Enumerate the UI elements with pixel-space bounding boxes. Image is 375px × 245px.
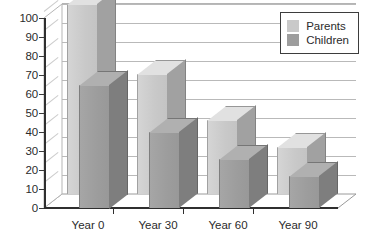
bar-front-face <box>289 176 320 208</box>
y-tick-label: 20 <box>26 164 38 176</box>
legend-swatch-icon <box>287 34 299 46</box>
x-tick-label: Year 0 <box>72 219 105 231</box>
y-tick-label: 0 <box>32 202 38 214</box>
y-tick-label: 60 <box>26 88 38 100</box>
bar <box>79 85 109 209</box>
legend-label: Parents <box>306 20 346 32</box>
left-wall-face <box>44 4 62 208</box>
bar <box>219 159 249 208</box>
y-tick-mark <box>39 94 44 95</box>
y-tick-mark <box>39 189 44 190</box>
x-tick-mark <box>183 208 184 214</box>
y-tick-mark <box>39 37 44 38</box>
x-tick-label: Year 60 <box>208 219 247 231</box>
x-tick-mark <box>113 208 114 214</box>
y-tick-label: 10 <box>26 183 38 195</box>
y-tick-label: 50 <box>26 107 38 119</box>
bar-front-face <box>79 85 110 209</box>
y-tick-label: 40 <box>26 126 38 138</box>
y-tick-mark <box>39 75 44 76</box>
bar <box>289 176 319 208</box>
y-tick-mark <box>39 113 44 114</box>
y-tick-label: 80 <box>26 50 38 62</box>
bar-chart: 0102030405060708090100 Year 0Year 30Year… <box>0 0 375 245</box>
y-tick-mark <box>39 208 44 209</box>
y-axis-labels: 0102030405060708090100 <box>6 0 38 245</box>
y-axis-line <box>44 18 46 208</box>
bar-side-face <box>109 70 128 208</box>
x-tick-label: Year 30 <box>138 219 177 231</box>
bar <box>149 132 179 208</box>
chart-legend: ParentsChildren <box>280 12 359 54</box>
legend-swatch-icon <box>287 20 299 32</box>
bar-front-face <box>149 132 180 208</box>
x-tick-mark <box>253 208 254 214</box>
bar-side-face <box>179 117 198 208</box>
bar-front-face <box>219 159 250 208</box>
y-tick-label: 30 <box>26 145 38 157</box>
y-tick-mark <box>39 170 44 171</box>
y-tick-label: 70 <box>26 69 38 81</box>
legend-item: Children <box>287 34 349 46</box>
y-tick-label: 90 <box>26 31 38 43</box>
legend-label: Children <box>306 34 349 46</box>
y-tick-mark <box>39 18 44 19</box>
y-tick-mark <box>39 151 44 152</box>
y-tick-mark <box>39 56 44 57</box>
legend-item: Parents <box>287 20 349 32</box>
x-tick-label: Year 90 <box>278 219 317 231</box>
y-tick-label: 100 <box>19 12 38 24</box>
y-tick-mark <box>39 132 44 133</box>
